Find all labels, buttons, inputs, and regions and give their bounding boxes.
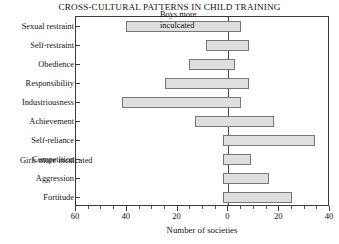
y-label-obedience: Obedience — [2, 59, 74, 68]
x-tick-minor — [240, 206, 241, 209]
x-tick-minor — [202, 206, 203, 209]
y-label-sexual-restraint: Sexual restraint — [2, 21, 74, 30]
x-tick-minor — [139, 206, 140, 209]
y-label-fortitude: Fortitude — [2, 192, 74, 201]
x-tick-minor — [88, 206, 89, 209]
x-tick-label: 60 — [71, 211, 80, 221]
x-tick-minor — [164, 206, 165, 209]
bar-obedience — [189, 59, 235, 70]
annotation-boys-line2: inculcated — [160, 21, 197, 32]
y-tick-mark — [75, 140, 80, 141]
x-tick-label: 0 — [225, 211, 229, 221]
annotation-girls-more-inculcated: Girls more inculcated — [20, 156, 93, 167]
bar-aggression — [223, 173, 269, 184]
x-tick-minor — [113, 206, 114, 209]
x-tick-minor — [253, 206, 254, 209]
y-tick-mark — [75, 197, 80, 198]
x-tick-minor — [100, 206, 101, 209]
annotation-boys-line1: Boys more — [160, 10, 197, 21]
x-tick-minor — [304, 206, 305, 209]
x-tick-minor — [215, 206, 216, 209]
x-tick-minor — [151, 206, 152, 209]
y-tick-mark — [75, 83, 80, 84]
plot-frame — [75, 16, 329, 206]
bar-industriousness — [122, 97, 241, 108]
y-label-self-reliance: Self-reliance — [2, 135, 74, 144]
x-tick-minor — [291, 206, 292, 209]
x-tick-label: 40 — [325, 211, 334, 221]
y-label-self-restraint: Self-restraint — [2, 40, 74, 49]
y-label-industriousness: Industriousness — [2, 97, 74, 106]
bar-competition — [223, 154, 251, 165]
annotation-girls-line1: Girls more inculcated — [20, 156, 93, 167]
bar-self-reliance — [223, 135, 314, 146]
bar-self-restraint — [206, 40, 249, 51]
x-tick-label: 40 — [122, 211, 131, 221]
y-tick-mark — [75, 26, 80, 27]
y-tick-mark — [75, 64, 80, 65]
x-tick-label: 20 — [274, 211, 283, 221]
annotation-boys-more-inculcated: Boys more inculcated — [160, 10, 197, 31]
y-tick-mark — [75, 121, 80, 122]
y-tick-mark — [75, 159, 80, 160]
y-axis-category-labels: Sexual restraintSelf-restraintObedienceR… — [0, 16, 74, 206]
chart-figure: CROSS-CULTURAL PATTERNS IN CHILD TRAININ… — [0, 0, 339, 244]
y-tick-mark — [75, 102, 80, 103]
x-axis-title: Number of societies — [75, 225, 329, 235]
plot-area — [76, 17, 328, 205]
x-tick-label: 20 — [172, 211, 181, 221]
y-tick-mark — [75, 178, 80, 179]
y-tick-mark — [75, 45, 80, 46]
y-label-achievement: Achievement — [2, 116, 74, 125]
bar-fortitude — [223, 192, 292, 203]
y-label-responsibility: Responsibility — [2, 78, 74, 87]
y-label-aggression: Aggression — [2, 173, 74, 182]
x-tick-minor — [266, 206, 267, 209]
bar-responsibility — [165, 78, 249, 89]
x-tick-minor — [316, 206, 317, 209]
bar-achievement — [195, 116, 274, 127]
x-tick-minor — [189, 206, 190, 209]
